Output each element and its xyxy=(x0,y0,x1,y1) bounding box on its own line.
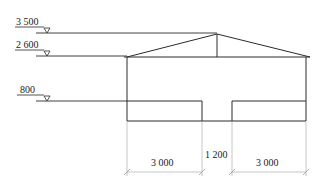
level-label: 800 xyxy=(20,84,35,95)
dimension-label: 3 000 xyxy=(256,157,279,168)
level-label: 2 600 xyxy=(16,39,39,50)
level-triangle-icon xyxy=(44,51,50,56)
level-marker-2600: 2 600 xyxy=(15,39,127,56)
dimension-label: 3 000 xyxy=(151,157,174,168)
level-triangle-icon xyxy=(44,28,50,33)
level-label: 3 500 xyxy=(16,16,39,27)
left-plinth xyxy=(127,101,202,121)
roof xyxy=(127,34,310,57)
level-triangle-icon xyxy=(44,96,50,101)
level-marker-800: 800 xyxy=(17,84,127,101)
building-outline xyxy=(124,34,310,121)
right-plinth xyxy=(232,101,306,121)
elevation-drawing: 3 500 2 600 800 3 000 1 200 3 0 xyxy=(0,0,323,184)
level-marker-3500: 3 500 xyxy=(15,16,217,33)
dimension-label: 1 200 xyxy=(205,149,228,160)
